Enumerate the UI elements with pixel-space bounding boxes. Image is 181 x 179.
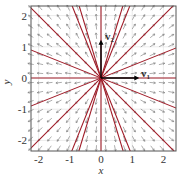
v2-label: v2 (105, 30, 115, 44)
phase-portrait: -22-11001-12-2 x y v1 v2 (0, 0, 181, 179)
trajectory-lines (0, 0, 181, 179)
svg-text:2: 2 (161, 153, 167, 165)
svg-text:2: 2 (22, 10, 28, 22)
svg-text:-2: -2 (18, 134, 27, 146)
svg-text:0: 0 (22, 72, 28, 84)
v1-label: v1 (141, 67, 151, 81)
svg-text:-1: -1 (65, 153, 74, 165)
x-axis-label: x (98, 164, 104, 176)
y-axis-label: y (0, 79, 12, 85)
svg-text:1: 1 (129, 153, 135, 165)
svg-text:-2: -2 (34, 153, 43, 165)
svg-text:1: 1 (22, 41, 28, 53)
svg-text:-1: -1 (18, 103, 27, 115)
